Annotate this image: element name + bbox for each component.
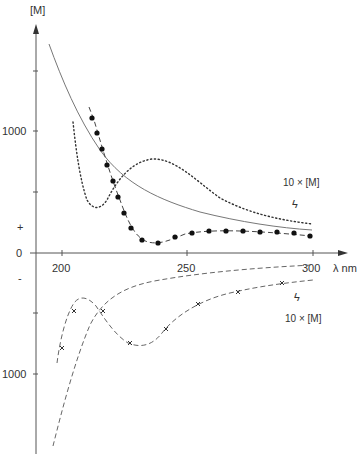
x-axis-label: λ nm: [333, 262, 357, 274]
lower-scale-annotation: 10 × [M]: [285, 313, 322, 324]
lower-bolt-icon: ϟ: [294, 291, 300, 303]
zero-label: 0: [16, 247, 22, 259]
dotted-curve: [73, 122, 312, 224]
y-axis-label: [M]: [30, 4, 45, 16]
cd-ord-chart: [M] 1000 + 0 - 1000 200 250 300 λ nm 10 …: [0, 0, 361, 454]
minus-sign: -: [18, 272, 22, 284]
plus-sign: +: [17, 221, 23, 233]
filled-circle-markers: [89, 115, 312, 245]
x-tick-label-200: 200: [52, 262, 70, 274]
solid-curve: [49, 44, 312, 230]
y-tick-label-neg1000: 1000: [2, 368, 26, 380]
x-markers: [60, 281, 284, 350]
axes: [30, 24, 348, 454]
y-axis-arrowhead: [33, 24, 39, 34]
negative-dashed-curve: [53, 265, 313, 446]
x-tick-label-300: 300: [302, 262, 320, 274]
upper-bolt-icon: ϟ: [292, 198, 298, 210]
dot-marked-dashed-curve: [89, 107, 311, 243]
x-axis-arrowhead: [338, 250, 348, 256]
x-tick-label-250: 250: [177, 262, 195, 274]
y-tick-label-1000: 1000: [2, 125, 26, 137]
x-marked-dashed-curve: [57, 280, 313, 363]
upper-scale-annotation: 10 × [M]: [283, 177, 320, 188]
